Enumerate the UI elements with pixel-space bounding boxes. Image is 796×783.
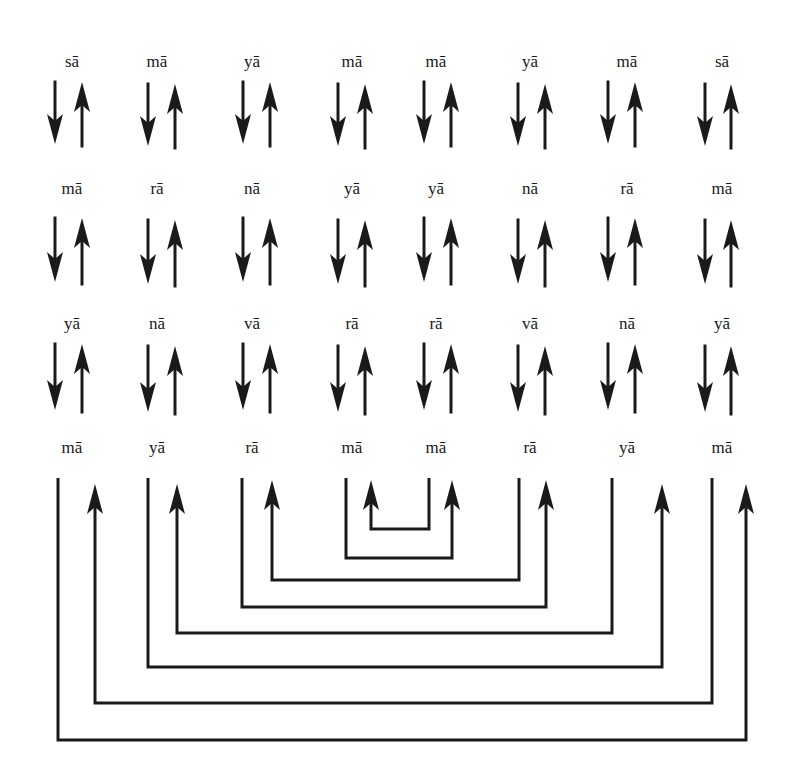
arrow-pairs [47, 82, 739, 414]
palindrome-arrow-diagram [0, 0, 796, 783]
bracket-link-6 [148, 478, 670, 667]
bracket-link-1 [363, 478, 429, 529]
bracket-link-7 [87, 478, 712, 703]
bracket-link-8 [58, 478, 754, 740]
bracket-link-4 [242, 478, 554, 607]
bottom-link-brackets [58, 478, 754, 740]
bracket-link-2 [346, 478, 460, 558]
